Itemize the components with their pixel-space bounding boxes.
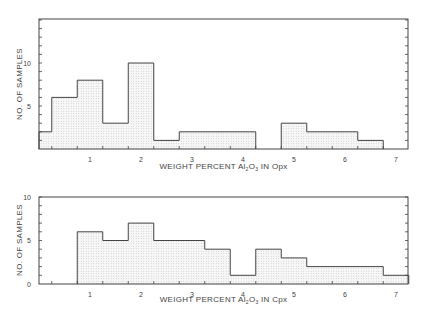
- histogram-bar: [154, 241, 205, 285]
- opx-histogram: 5101234567NO. OF SAMPLESWEIGHT PERCENT A…: [15, 19, 408, 172]
- x-tick-label: 5: [292, 156, 296, 163]
- histogram-bar: [281, 123, 307, 149]
- histogram-bar: [103, 123, 129, 149]
- histogram-bar: [358, 140, 384, 149]
- cpx-histogram: 05101234567NO. OF SAMPLESWEIGHT PERCENT …: [15, 194, 409, 306]
- histogram-bar: [256, 249, 282, 284]
- y-tick-label: 5: [27, 103, 31, 110]
- x-tick-label: 6: [343, 156, 347, 163]
- x-tick-label: 6: [343, 291, 347, 298]
- y-tick-label: 10: [23, 60, 31, 67]
- histogram-bar: [128, 63, 154, 149]
- histogram-bar: [179, 132, 256, 149]
- histogram-bar: [52, 97, 78, 149]
- y-axis-label: NO. OF SAMPLES: [15, 48, 24, 120]
- histogram-bar: [128, 223, 154, 284]
- histogram-bar: [281, 258, 307, 284]
- histogram-bar: [154, 140, 180, 149]
- y-tick-label: 5: [27, 237, 31, 244]
- histogram-bar: [77, 232, 103, 284]
- x-tick-label: 2: [139, 156, 143, 163]
- x-axis-label: WEIGHT PERCENT Al2O3 IN Opx: [159, 162, 287, 172]
- y-tick-label: 0: [27, 281, 31, 288]
- x-tick-label: 5: [292, 291, 296, 298]
- histogram-bar: [77, 80, 103, 149]
- histogram-bar: [307, 267, 384, 284]
- x-tick-label: 1: [88, 291, 92, 298]
- x-tick-label: 1: [88, 156, 92, 163]
- x-axis-label: WEIGHT PERCENT Al2O3 IN Cpx: [160, 295, 288, 305]
- histogram-bar: [230, 275, 256, 284]
- x-tick-label: 7: [394, 291, 398, 298]
- x-tick-label: 7: [394, 156, 398, 163]
- y-tick-label: 10: [23, 194, 31, 201]
- y-axis-label: NO. OF SAMPLES: [15, 204, 24, 276]
- histogram-bar: [383, 275, 409, 284]
- histogram-bar: [103, 241, 129, 285]
- x-tick-label: 2: [139, 291, 143, 298]
- histogram-figure: 5101234567NO. OF SAMPLESWEIGHT PERCENT A…: [0, 0, 424, 322]
- histogram-bar: [205, 249, 231, 284]
